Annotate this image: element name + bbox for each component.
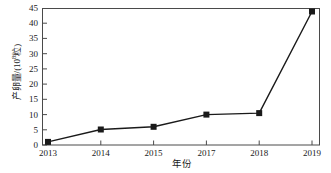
data-point-2017[interactable]	[203, 112, 209, 118]
data-point-2015[interactable]	[151, 124, 157, 130]
data-point-2014[interactable]	[98, 127, 104, 133]
x-tick-label: 2013	[39, 148, 57, 158]
x-tick-label: 2017	[197, 148, 215, 158]
data-point-2019[interactable]	[309, 9, 315, 15]
data-point-2018[interactable]	[256, 110, 262, 116]
x-tick-label: 2014	[92, 148, 110, 158]
data-point-2013[interactable]	[45, 139, 51, 145]
chart-figure: 产卵量/(108粒) 45 40 35 30 25 20 15 10 5 0	[0, 0, 331, 173]
x-tick-label: 2015	[145, 148, 163, 158]
x-tick-label: 2019	[303, 148, 321, 158]
x-axis-title: 年份	[42, 159, 321, 170]
x-tick-label: 2018	[250, 148, 268, 158]
